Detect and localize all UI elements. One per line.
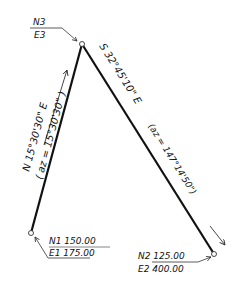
point-2-marker xyxy=(212,252,217,257)
point-1-north-label: N1 150.00 xyxy=(49,236,96,246)
point-3-marker xyxy=(80,42,85,47)
point-2-north-label: N2 125.00 xyxy=(138,251,185,261)
traverse-diagram: N3 E3 N1 150.00 E1 175.00 N2 125.00 E2 4… xyxy=(0,0,239,287)
point-3-north-label: N3 xyxy=(33,17,46,27)
point-3-east-label: E3 xyxy=(34,30,46,40)
bearing-p3-p2: S 32°45'10" E xyxy=(97,41,144,106)
direction-arrow-p3-p2 xyxy=(210,226,225,245)
point-2-east-label: E2 400.00 xyxy=(138,264,184,274)
line-p3-p2 xyxy=(82,44,214,254)
point-1-marker xyxy=(29,231,34,236)
point-1-east-label: E1 175.00 xyxy=(49,248,95,258)
